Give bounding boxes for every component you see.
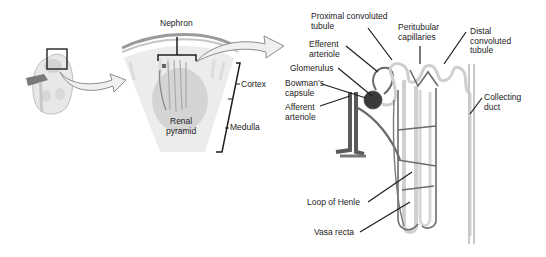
label-loop-of-henle: Loop of Henle <box>307 198 360 208</box>
label-glomerulus: Glomerulus <box>290 64 333 74</box>
label-distal-convoluted-tubule: Distal convoluted tubule <box>470 27 511 56</box>
nephron-illustration <box>336 64 474 244</box>
label-nephron: Nephron <box>160 19 193 29</box>
label-renal-pyramid: Renal pyramid <box>166 117 196 136</box>
kidney-illustration <box>26 49 73 114</box>
label-bowmans-capsule: Bowman's capsule <box>285 79 324 98</box>
label-efferent-arteriole: Efferent arteriole <box>309 40 340 59</box>
label-proximal-convoluted-tubule: Proximal convoluted tubule <box>311 12 388 31</box>
label-cortex: Cortex <box>241 80 266 90</box>
label-medulla: Medulla <box>230 123 260 133</box>
label-peritubular-capillaries: Peritubular capillaries <box>398 23 439 42</box>
nephron-diagram: Nephron Cortex Renal pyramid Medulla Pro… <box>0 0 546 257</box>
label-afferent-arteriole: Afferent arteriole <box>285 103 316 122</box>
diagram-artwork <box>0 0 546 257</box>
glomerulus-shape <box>364 91 382 109</box>
label-vasa-recta: Vasa recta <box>314 228 354 238</box>
label-collecting-duct: Collecting duct <box>484 93 521 112</box>
